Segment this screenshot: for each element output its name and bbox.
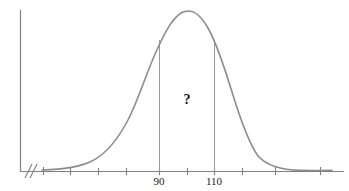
- normal-curve: [42, 11, 332, 171]
- normal-distribution-plot: [0, 0, 349, 191]
- region-question-mark-label: ?: [177, 92, 197, 108]
- x-tick-label-90: 90: [139, 175, 179, 187]
- x-tick-label-110: 110: [194, 175, 234, 187]
- figure-canvas: 90 110 ?: [0, 0, 349, 191]
